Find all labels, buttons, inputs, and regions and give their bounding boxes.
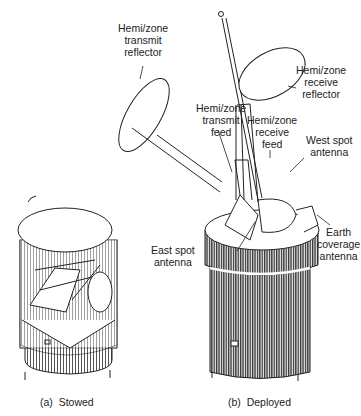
stowed-satellite	[18, 196, 117, 380]
label-east-spot-antenna: East spot antenna	[151, 244, 195, 268]
label-west-spot-antenna: West spot antenna	[306, 134, 353, 158]
caption-stowed: (a) Stowed	[40, 396, 94, 408]
label-transmit-feed: Hemi/zone transmit feed	[196, 102, 246, 138]
label-receive-reflector: Hemi/zone receive reflector	[296, 64, 346, 100]
label-receive-feed: Hemi/zone receive feed	[247, 114, 297, 150]
label-earth-coverage-antenna: Earth coverage antenna	[317, 226, 360, 262]
caption-deployed: (b) Deployed	[228, 396, 291, 408]
satellite-diagram	[0, 0, 361, 416]
deployed-satellite	[109, 12, 319, 382]
label-transmit-reflector: Hemi/zone transmit reflector	[118, 22, 168, 58]
